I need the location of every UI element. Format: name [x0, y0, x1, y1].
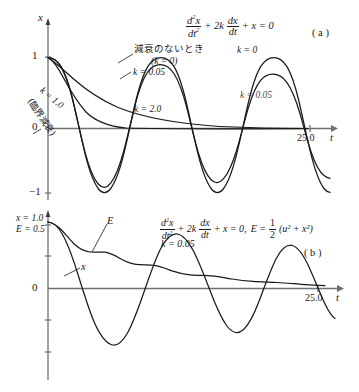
eq-b-dx: dx — [199, 218, 210, 229]
panel-a-x-axis-title: t — [330, 133, 333, 144]
panel-b-ytick-0: 0 — [32, 282, 38, 293]
panel-a-y-axis-title: x — [38, 12, 43, 23]
panel-a-equation: d2x dt2 + 2k dx dt + x = 0 — [186, 14, 274, 39]
eq-a-dt: dt — [227, 27, 239, 38]
eq-b-plus-2k: + 2k — [178, 224, 197, 234]
annotation-k005-left: k = 0.05 — [133, 68, 165, 78]
annotation-k005-right: k = 0.05 — [240, 91, 272, 101]
panel-b-y-label-E: E = 0.5 — [16, 225, 45, 235]
panel-b-kvalue: k = 0.05 — [161, 239, 195, 249]
panel-a-xtick-25: 25.0 — [297, 133, 315, 143]
annotation-undamped-line2: (k = 0) — [151, 57, 177, 67]
eq-a-tail: + x = 0 — [242, 21, 274, 32]
panel-b-label: ( b ) — [304, 248, 322, 259]
curve-k005 — [48, 58, 330, 188]
panel-a-ytick-1: 1 — [32, 50, 38, 61]
panel-a-ytick-0: 0 — [32, 121, 38, 132]
annotation-k20: k = 2.0 — [134, 105, 161, 115]
annotation-energy-curve: E — [107, 216, 113, 227]
panel-a-ytick-neg1: −1 — [29, 186, 41, 197]
eq-b-dt: dt — [199, 230, 210, 240]
eq-b-energy-lead: E = — [251, 224, 266, 234]
eq-a-plus-2k: + 2k — [204, 21, 224, 32]
eq-b-energy-tail: (u² + x²) — [279, 224, 313, 234]
annotation-undamped-line1: 減衰のないとき — [134, 44, 204, 54]
panel-a-label: ( a ) — [312, 28, 329, 39]
figure-canvas — [0, 0, 359, 392]
panel-a-curves — [48, 58, 330, 193]
eq-b-energy-den: 2 — [269, 230, 276, 240]
panel-b-x-axis-title: t — [336, 293, 339, 304]
eq-b-tail: + x = 0, — [214, 224, 247, 234]
panel-b-xtick-25: 25.0 — [305, 293, 323, 303]
eq-b-energy-num: 1 — [269, 218, 276, 229]
eq-a-den: dt2 — [186, 27, 201, 39]
annotation-k0-right: k = 0 — [237, 46, 257, 56]
curve-k0 — [48, 58, 330, 193]
figure-damped-oscillation: x 1 0 −1 25.0 t d2x dt2 + 2k dx dt + x =… — [0, 0, 359, 392]
annotation-displacement-curve: x — [81, 262, 86, 273]
panel-b-y-label-x: x = 1.0 — [16, 214, 43, 224]
